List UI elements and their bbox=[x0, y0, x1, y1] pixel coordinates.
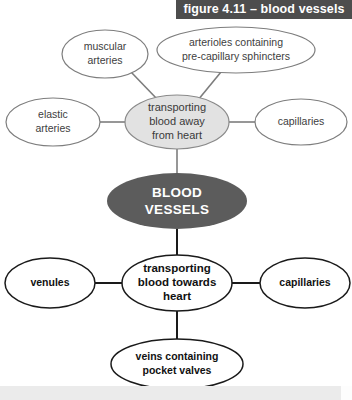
arterial-hub-label-line-2: blood away bbox=[149, 115, 205, 127]
page-footer-band bbox=[0, 386, 341, 400]
node-veins[interactable]: veins containing pocket valves bbox=[111, 339, 243, 389]
connector-arterioles bbox=[198, 72, 221, 100]
node-arterioles[interactable]: arterioles containing pre-capillary sphi… bbox=[157, 27, 315, 73]
venous-hub-label-line-3: heart bbox=[163, 290, 191, 302]
arterial-hub-label-line-1: transporting bbox=[148, 101, 206, 113]
page-footer-band-edge bbox=[341, 386, 352, 400]
veins-label-line-1: veins containing bbox=[136, 350, 219, 362]
elastic-arteries-label-line-1: elastic bbox=[38, 108, 68, 120]
venous-hub-label-line-1: transporting bbox=[143, 262, 211, 274]
connector-muscular-arteries bbox=[131, 72, 158, 100]
muscular-arteries-label-line-1: muscular bbox=[84, 40, 127, 52]
capillaries-upper-label: capillaries bbox=[278, 115, 325, 127]
node-venules[interactable]: venules bbox=[5, 258, 95, 308]
muscular-arteries-label-line-2: arteries bbox=[87, 54, 122, 66]
node-elastic-arteries[interactable]: elastic arteries bbox=[6, 98, 100, 146]
capillaries-lower-label: capillaries bbox=[279, 276, 331, 288]
node-arterial-hub[interactable]: transporting blood away from heart bbox=[125, 95, 229, 149]
venous-hub-label-line-2: blood towards bbox=[138, 276, 217, 288]
veins-label-line-2: pocket valves bbox=[143, 364, 212, 376]
blood-vessels-label-line-2: VESSELS bbox=[145, 202, 209, 217]
arterioles-label-line-1: arterioles containing bbox=[189, 36, 283, 48]
elastic-arteries-label-line-2: arteries bbox=[35, 122, 70, 134]
arterioles-label-line-2: pre-capillary sphincters bbox=[182, 50, 290, 62]
blood-vessels-label-line-1: BLOOD bbox=[152, 185, 202, 200]
node-blood-vessels[interactable]: BLOOD VESSELS bbox=[107, 173, 247, 229]
node-capillaries-upper[interactable]: capillaries bbox=[255, 99, 347, 145]
figure-diagram: figure 4.11 – blood vessels bbox=[0, 0, 352, 400]
venules-label: venules bbox=[30, 276, 69, 288]
node-capillaries-lower[interactable]: capillaries bbox=[260, 258, 350, 308]
diagram-canvas: muscular arteries arterioles containing … bbox=[0, 0, 352, 400]
arterial-hub-label-line-3: from heart bbox=[152, 129, 202, 141]
node-muscular-arteries[interactable]: muscular arteries bbox=[62, 30, 148, 78]
node-venous-hub[interactable]: transporting blood towards heart bbox=[122, 255, 232, 311]
